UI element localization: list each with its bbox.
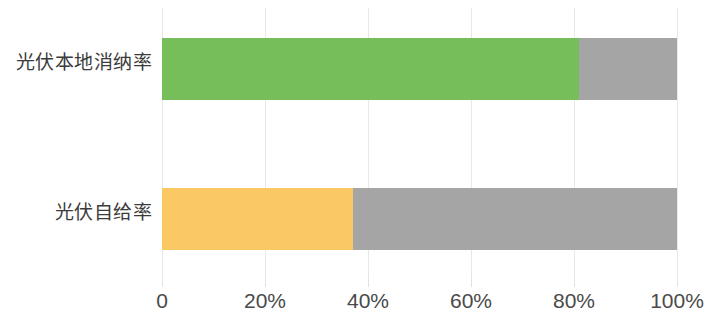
x-tick-label: 80% bbox=[553, 288, 595, 314]
bar-segment-remainder[interactable] bbox=[353, 188, 677, 250]
x-tick-label: 20% bbox=[244, 288, 286, 314]
bar-segment-value[interactable] bbox=[162, 38, 579, 100]
x-axis-ticks bbox=[162, 278, 677, 287]
bar-segment-value[interactable] bbox=[162, 188, 353, 250]
bar-row bbox=[162, 38, 677, 100]
tick-mark-80% bbox=[574, 278, 575, 287]
bar-row bbox=[162, 188, 677, 250]
x-axis-labels: 020%40%60%80%100% bbox=[162, 288, 677, 318]
tick-mark-60% bbox=[471, 278, 472, 287]
category-label-1: 光伏自给率 bbox=[0, 202, 152, 224]
tick-mark-100% bbox=[677, 278, 678, 287]
x-tick-label: 40% bbox=[347, 288, 389, 314]
x-tick-label: 100% bbox=[650, 288, 704, 314]
category-label-0: 光伏本地消纳率 bbox=[0, 52, 152, 74]
tick-mark-20% bbox=[265, 278, 266, 287]
plot-area bbox=[162, 8, 677, 278]
x-tick-label: 0 bbox=[156, 288, 168, 314]
tick-mark-0 bbox=[162, 278, 163, 287]
category-axis: 光伏本地消纳率 光伏自给率 bbox=[0, 0, 152, 320]
bar-segment-remainder[interactable] bbox=[579, 38, 677, 100]
tick-mark-40% bbox=[368, 278, 369, 287]
x-tick-label: 60% bbox=[450, 288, 492, 314]
gridline-100% bbox=[677, 8, 678, 278]
